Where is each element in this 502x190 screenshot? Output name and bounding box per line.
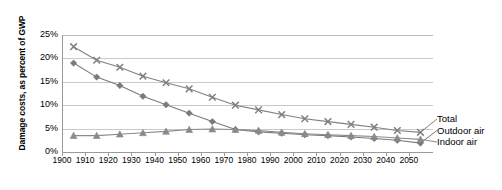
x-tick-label: 1960 (191, 155, 210, 165)
x-tick-label: 1920 (99, 155, 118, 165)
x-tick-label: 1940 (145, 155, 164, 165)
x-axis-tick-labels: 1900191019201930194019501960197019801990… (62, 155, 432, 169)
legend-item-indoor-air: Indoor air (437, 136, 501, 148)
y-tick-label: 5% (18, 124, 58, 133)
legend-item-outdoor-air: Outdoor air (437, 125, 501, 137)
legend-item-total: Total (437, 113, 501, 125)
x-tick-label: 2050 (399, 155, 418, 165)
legend-leader-line (420, 119, 437, 132)
series-outdoor-air (70, 60, 423, 146)
x-tick-label: 2000 (284, 155, 303, 165)
x-tick-label: 1930 (122, 155, 141, 165)
x-tick-label: 1980 (238, 155, 257, 165)
y-tick-label: 20% (18, 53, 58, 62)
x-tick-label: 1910 (76, 155, 95, 165)
y-axis-tick-labels: 0%5%10%15%20%25% (16, 35, 58, 152)
series-layer (62, 35, 434, 154)
x-tick-label: 2020 (330, 155, 349, 165)
x-tick-label: 2040 (376, 155, 395, 165)
y-tick-label: 15% (18, 77, 58, 86)
x-tick-label: 2030 (353, 155, 372, 165)
x-tick-label: 1900 (53, 155, 72, 165)
y-tick-label: 25% (18, 30, 58, 39)
series-indoor-air (70, 126, 424, 143)
legend: Total Outdoor air Indoor air (437, 113, 501, 148)
x-tick-label: 1970 (214, 155, 233, 165)
y-tick-label: 10% (18, 100, 58, 109)
x-tick-label: 1950 (168, 155, 187, 165)
x-tick-label: 2010 (307, 155, 326, 165)
series-total (70, 43, 423, 135)
chart-container: Damage costs, as percent of GWP 0%5%10%1… (0, 0, 502, 190)
x-tick-label: 1990 (261, 155, 280, 165)
